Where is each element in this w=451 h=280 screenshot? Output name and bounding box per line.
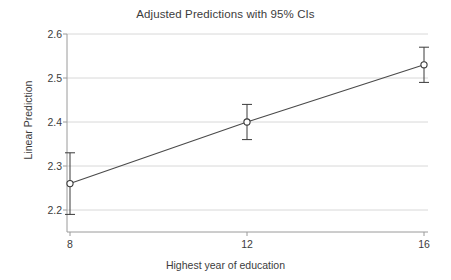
- x-tick-label: 16: [404, 239, 444, 250]
- x-tick-labels: 81216: [0, 0, 451, 280]
- chart-container: Adjusted Predictions with 95% CIs 2.22.3…: [0, 0, 451, 280]
- x-tick-label: 8: [50, 239, 90, 250]
- x-axis-title: Highest year of education: [0, 259, 451, 271]
- x-tick-label: 12: [227, 239, 267, 250]
- y-axis-title: Linear Prediction: [22, 40, 34, 200]
